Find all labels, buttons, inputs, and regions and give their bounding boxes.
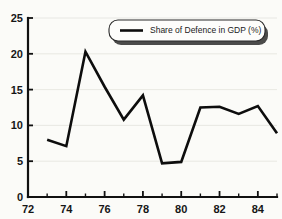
y-tick-label: 0 — [17, 191, 23, 203]
legend-label: Share of Defence in GDP (%) — [150, 25, 262, 35]
y-tick-label: 15 — [11, 84, 23, 96]
x-tick-label: 82 — [213, 203, 225, 215]
y-tick-label: 25 — [11, 12, 23, 24]
y-tick-label: 20 — [11, 48, 23, 60]
x-tick-label: 84 — [252, 203, 265, 215]
y-tick-label: 10 — [11, 119, 23, 131]
x-axis-labels: 72747678808284 — [22, 203, 265, 215]
y-axis-labels: 0510152025 — [11, 12, 23, 203]
series-line-0 — [47, 52, 277, 164]
chart-container: 0510152025 72747678808284 Share of Defen… — [0, 0, 282, 219]
y-tick-label: 5 — [17, 155, 23, 167]
x-tick-label: 78 — [137, 203, 149, 215]
x-tick-label: 72 — [22, 203, 34, 215]
chart-legend[interactable]: Share of Defence in GDP (%) — [109, 20, 268, 45]
x-tick-label: 80 — [175, 203, 187, 215]
x-tick-label: 76 — [98, 203, 110, 215]
line-chart: 0510152025 72747678808284 Share of Defen… — [0, 0, 282, 219]
x-tick-label: 74 — [60, 203, 73, 215]
data-series-group — [47, 52, 277, 164]
